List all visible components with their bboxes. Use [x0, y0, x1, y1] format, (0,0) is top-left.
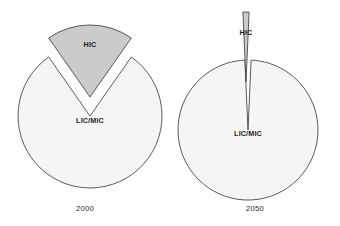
pie-slice-label-lic-mic-2000: LIC/MIC: [76, 116, 104, 125]
pie-caption-2050: 2050: [170, 204, 340, 213]
pie-svg-2000: HIC LIC/MIC: [0, 0, 170, 226]
pie-svg-2050: HIC LIC/MIC: [170, 0, 340, 226]
pie-slice-label-hic-2000: HIC: [84, 40, 97, 49]
pie-slice-label-hic-2050: HIC: [240, 28, 253, 37]
pie-slice-label-lic-mic-2050: LIC/MIC: [234, 129, 262, 138]
pie-caption-2000: 2000: [0, 204, 170, 213]
pie-chart-figure: HIC LIC/MIC 2000 HIC LIC/MIC 2050: [0, 0, 340, 226]
pie-panel-2050: HIC LIC/MIC 2050: [170, 0, 340, 226]
pie-panel-2000: HIC LIC/MIC 2000: [0, 0, 170, 226]
